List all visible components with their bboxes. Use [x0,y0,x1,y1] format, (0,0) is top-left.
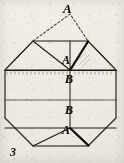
apex-label-a: A [63,2,72,15]
upper-label-b: B [65,73,73,85]
octagon-outline [5,41,116,146]
upper-label-a: A [62,54,70,66]
band-lines [5,70,116,128]
figure-canvas: A A B B A 3 [0,0,124,163]
lower-label-b: B [65,104,73,116]
upper-right-heavy-fold [71,42,89,70]
octagon-diagram [0,0,124,163]
dashed-triangle [33,14,88,41]
upper-fold-diagonals [5,41,116,70]
lower-label-a: A [62,124,70,136]
band-edge-stipple [7,72,111,74]
lower-right-heavy-fold [71,129,89,146]
figure-number: 3 [10,146,16,158]
lower-fold-diagonals [5,118,116,146]
